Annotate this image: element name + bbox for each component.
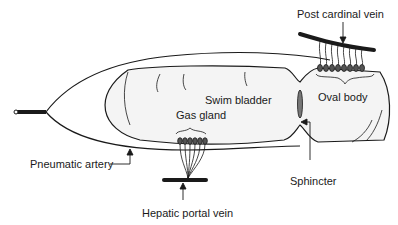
label-gas-gland: Gas gland (176, 109, 226, 121)
label-hepatic-portal-vein: Hepatic portal vein (142, 207, 233, 219)
sphincter-shape (298, 90, 303, 118)
post-cardinal-vein (300, 34, 374, 50)
label-sphincter: Sphincter (290, 175, 336, 187)
label-pneumatic-artery: Pneumatic artery (30, 158, 113, 170)
label-swim-bladder: Swim bladder (205, 94, 272, 106)
label-post-cardinal-vein: Post cardinal vein (297, 8, 384, 20)
label-oval-body: Oval body (318, 91, 368, 103)
